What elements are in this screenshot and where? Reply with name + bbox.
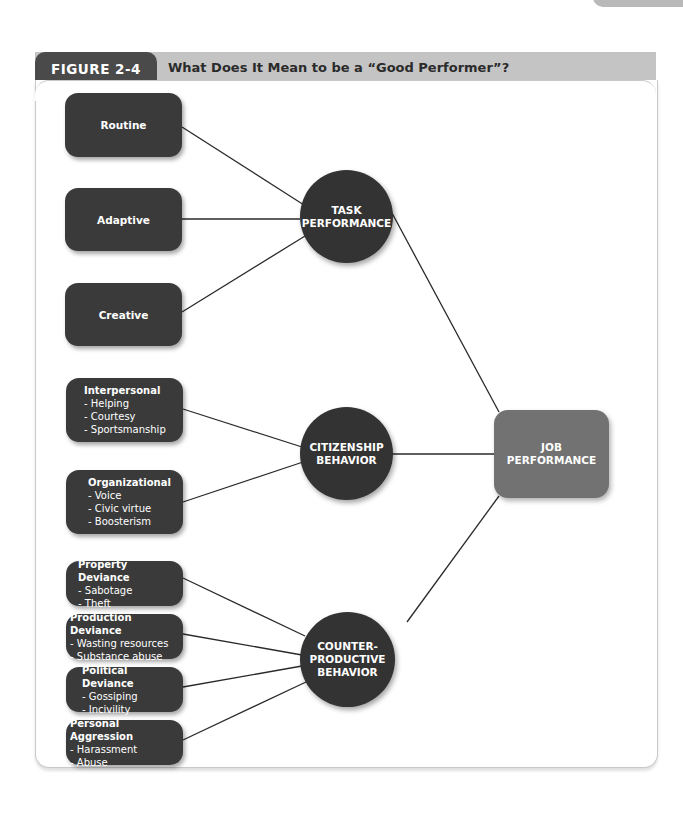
category-citizenship-line2: BEHAVIOR xyxy=(309,454,383,467)
node-adaptive-label: Adaptive xyxy=(97,214,150,226)
node-interpersonal-item: - Helping xyxy=(84,397,177,410)
link-property-counterproductive xyxy=(183,578,305,636)
node-property-deviance: Property Deviance - Sabotage - Theft xyxy=(66,561,183,606)
node-routine-label: Routine xyxy=(101,119,147,131)
node-organizational-title: Organizational xyxy=(88,476,177,489)
node-organizational-item: - Boosterism xyxy=(88,515,177,528)
link-creative-task xyxy=(182,236,305,312)
node-interpersonal-item: - Sportsmanship xyxy=(84,423,177,436)
category-counterproductive-line1: COUNTER- xyxy=(309,640,385,653)
outcome-line1: JOB xyxy=(507,441,596,454)
link-routine-task xyxy=(182,127,304,205)
link-task-job xyxy=(392,213,499,412)
node-political-deviance: Political Deviance - Gossiping - Incivil… xyxy=(66,667,183,712)
link-counterproductive-job xyxy=(407,496,499,622)
node-production-deviance-item: - Substance abuse xyxy=(70,650,177,663)
node-routine: Routine xyxy=(65,93,182,157)
category-counterproductive-behavior: COUNTER- PRODUCTIVE BEHAVIOR xyxy=(300,612,395,707)
node-adaptive: Adaptive xyxy=(65,188,182,251)
node-organizational-item: - Voice xyxy=(88,489,177,502)
category-task-performance: TASK PERFORMANCE xyxy=(300,170,393,263)
link-organizational-citizenship xyxy=(183,462,303,502)
node-property-deviance-title: Property Deviance xyxy=(78,558,177,584)
link-political-counterproductive xyxy=(183,666,302,687)
node-creative: Creative xyxy=(65,283,182,346)
outcome-job-performance: JOB PERFORMANCE xyxy=(494,410,609,498)
node-political-deviance-item: - Gossiping xyxy=(82,690,177,703)
node-personal-aggression: Personal Aggression - Harassment - Abuse xyxy=(66,720,183,765)
category-counterproductive-line2: PRODUCTIVE xyxy=(309,653,385,666)
node-production-deviance: Production Deviance - Wasting resources … xyxy=(66,614,183,659)
node-personal-aggression-item: - Harassment xyxy=(70,743,177,756)
link-interpersonal-citizenship xyxy=(183,409,302,447)
node-property-deviance-item: - Theft xyxy=(78,597,177,610)
node-personal-aggression-item: - Abuse xyxy=(70,756,177,769)
node-creative-label: Creative xyxy=(99,309,149,321)
node-political-deviance-item: - Incivility xyxy=(82,703,177,716)
link-production-counterproductive xyxy=(183,634,302,655)
outcome-line2: PERFORMANCE xyxy=(507,454,596,467)
node-organizational-item: - Civic virtue xyxy=(88,502,177,515)
category-task-line2: PERFORMANCE xyxy=(302,217,391,230)
node-property-deviance-item: - Sabotage xyxy=(78,584,177,597)
category-task-line1: TASK xyxy=(302,204,391,217)
category-citizenship-line1: CITIZENSHIP xyxy=(309,441,383,454)
category-citizenship-behavior: CITIZENSHIP BEHAVIOR xyxy=(300,407,393,500)
node-political-deviance-title: Political Deviance xyxy=(82,664,177,690)
node-interpersonal-item: - Courtesy xyxy=(84,410,177,423)
node-production-deviance-title: Production Deviance xyxy=(70,611,177,637)
category-counterproductive-line3: BEHAVIOR xyxy=(309,666,385,679)
node-interpersonal-title: Interpersonal xyxy=(84,384,177,397)
node-production-deviance-item: - Wasting resources xyxy=(70,637,177,650)
node-interpersonal: Interpersonal - Helping - Courtesy - Spo… xyxy=(66,378,183,442)
node-organizational: Organizational - Voice - Civic virtue - … xyxy=(66,470,183,534)
node-personal-aggression-title: Personal Aggression xyxy=(70,717,177,743)
link-aggression-counterproductive xyxy=(183,682,306,740)
